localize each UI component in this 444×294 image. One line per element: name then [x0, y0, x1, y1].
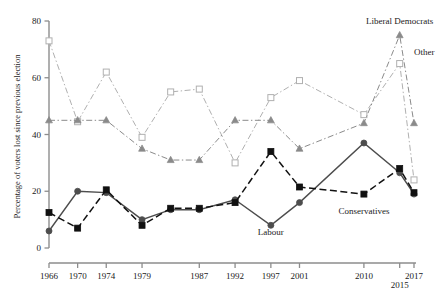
data-point-circle	[296, 200, 302, 206]
data-point-square-open	[196, 86, 202, 92]
y-tick-label: 60	[32, 73, 42, 83]
y-tick-label: 40	[32, 130, 42, 140]
series-annotation-conservatives: Conservatives	[338, 206, 389, 216]
data-point-square-open	[361, 112, 367, 118]
data-point-circle	[361, 140, 367, 146]
data-point-square-open	[296, 78, 302, 84]
data-point-square-open	[168, 89, 174, 95]
data-point-triangle	[360, 119, 367, 125]
data-point-triangle	[46, 117, 53, 123]
data-point-circle	[75, 188, 81, 194]
x-tick-label: 2017	[405, 271, 424, 281]
data-point-circle	[139, 217, 145, 223]
x-tick-label: 1974	[97, 271, 116, 281]
y-axis-title: Percentage of voters lost since previous…	[12, 54, 22, 219]
data-point-square	[139, 222, 145, 228]
election-line-chart: 020406080Percentage of voters lost since…	[0, 0, 444, 294]
chart-container: 020406080Percentage of voters lost since…	[0, 0, 444, 294]
data-point-square	[46, 210, 52, 216]
data-point-triangle	[139, 145, 146, 151]
series-other	[46, 38, 417, 183]
data-point-square-open	[232, 160, 238, 166]
series-annotation-labour: Labour	[258, 227, 284, 237]
data-point-square	[103, 187, 109, 193]
series-labour	[46, 140, 417, 234]
data-point-square	[411, 190, 417, 196]
data-point-square	[75, 225, 81, 231]
data-point-triangle	[396, 31, 403, 37]
series-line	[49, 35, 414, 160]
data-point-square-open	[268, 95, 274, 101]
data-point-square	[268, 149, 274, 155]
x-tick-label: 2010	[355, 271, 374, 281]
y-tick-label: 0	[37, 243, 42, 253]
y-tick-label: 80	[32, 16, 42, 26]
series-conservatives	[46, 149, 417, 232]
data-point-square	[168, 205, 174, 211]
x-tick-label: 1987	[190, 271, 209, 281]
series-line	[49, 41, 414, 180]
data-point-square-open	[139, 134, 145, 140]
data-point-square-open	[46, 38, 52, 44]
x-tick-label: 1966	[40, 271, 59, 281]
data-point-triangle	[267, 117, 274, 123]
x-tick-label: 1992	[226, 271, 244, 281]
data-point-square-open	[411, 177, 417, 183]
x-tick-label: 1979	[133, 271, 152, 281]
x-tick-label: 1997	[262, 271, 281, 281]
x-tick-label: 1970	[69, 271, 88, 281]
data-point-square	[296, 184, 302, 190]
x-tick-label: 2001	[290, 271, 308, 281]
data-point-square	[196, 205, 202, 211]
data-point-triangle	[103, 117, 110, 123]
data-point-square	[397, 166, 403, 172]
data-point-triangle	[411, 119, 418, 125]
data-point-triangle	[167, 156, 174, 162]
y-tick-label: 20	[32, 186, 42, 196]
data-point-square	[361, 191, 367, 197]
series-annotation-liberal-democrats: Liberal Democrats	[366, 16, 434, 26]
x-tick-label: 2015	[391, 280, 410, 290]
data-point-triangle	[232, 117, 239, 123]
data-point-square-open	[397, 61, 403, 67]
data-point-square	[232, 200, 238, 206]
series-annotation-other: Other	[414, 47, 435, 57]
data-point-circle	[46, 228, 52, 234]
data-point-square-open	[103, 69, 109, 75]
